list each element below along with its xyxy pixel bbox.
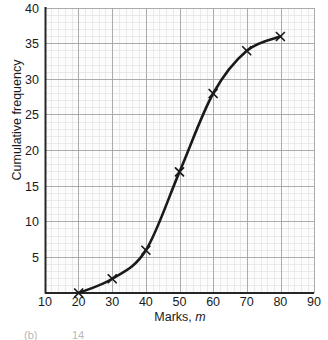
chart-canvas: 510152025303540 102030405060708090 <box>0 0 328 340</box>
y-tick-label: 35 <box>25 37 39 51</box>
y-tick-label: 20 <box>25 144 39 158</box>
y-tick-label: 30 <box>25 73 39 87</box>
x-axis-label-text: Marks, m <box>154 310 205 324</box>
x-axis-label: Marks, m <box>45 307 315 325</box>
footer-part-label: (b) <box>24 329 37 340</box>
footer-value: 14 <box>72 329 84 340</box>
y-tick-label: 10 <box>25 215 39 229</box>
y-tick-labels: 510152025303540 <box>25 2 39 265</box>
cumulative-frequency-figure: 510152025303540 102030405060708090 Cumul… <box>0 0 328 340</box>
y-tick-label: 40 <box>25 2 39 16</box>
y-tick-label: 25 <box>25 108 39 122</box>
y-tick-label: 15 <box>25 180 39 194</box>
y-tick-label: 5 <box>32 251 39 265</box>
x-axis-label-plain: Marks, <box>154 310 192 324</box>
x-axis-label-variable: m <box>195 310 205 324</box>
